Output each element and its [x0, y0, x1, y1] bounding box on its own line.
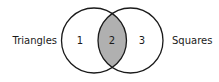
venn-diagram: Triangles 1 2 3 Squares [0, 0, 219, 82]
region-label-2: 2 [109, 35, 115, 46]
set-label-triangles: Triangles [12, 35, 57, 46]
region-label-3: 3 [139, 35, 145, 46]
set-label-squares: Squares [172, 35, 212, 46]
region-label-1: 1 [77, 35, 83, 46]
